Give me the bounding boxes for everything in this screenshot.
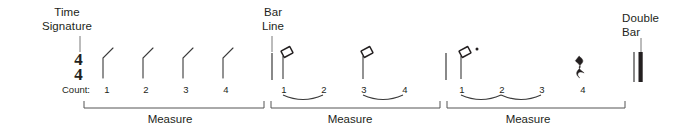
quarter-note [103,48,113,78]
measure-brackets [84,101,625,108]
half-note [281,46,293,79]
svg-text:4: 4 [74,65,83,84]
measure-2-notes [281,46,403,99]
double-bar [634,52,643,82]
measure-3-notes [459,46,584,99]
quarter-note [143,48,153,78]
dotted-half-note [459,46,479,79]
slur [501,95,541,100]
measure-bracket [271,101,440,108]
time-signature-glyph: 4 4 [74,50,83,84]
half-note [361,46,373,79]
measure-1-notes [103,48,233,78]
augmentation-dot [476,48,479,51]
label-leader-lines [80,36,641,52]
slur [461,95,501,100]
quarter-note [223,48,233,78]
slur [283,95,323,100]
quarter-note [183,48,193,78]
slur [363,95,403,100]
measure-bracket [84,101,264,108]
quarter-rest [575,56,584,78]
rhythm-notation-diagram: Time Signature Bar Line Double Bar Count… [0,0,697,131]
notation-canvas: 4 4 [0,0,697,131]
measure-bracket [447,101,625,108]
